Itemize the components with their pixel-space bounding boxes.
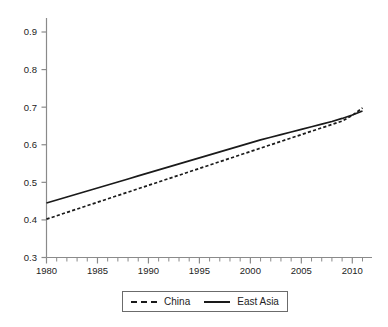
legend-label-china: China bbox=[164, 297, 190, 307]
x-tick-label: 1985 bbox=[87, 265, 108, 276]
x-tick-label: 1980 bbox=[36, 265, 57, 276]
chart-legend: China East Asia bbox=[122, 291, 288, 312]
y-tick-label: 0.5 bbox=[24, 177, 37, 188]
x-tick-label: 2005 bbox=[291, 265, 312, 276]
x-tick-label: 1990 bbox=[138, 265, 159, 276]
x-tick-label: 2000 bbox=[240, 265, 261, 276]
y-tick-label: 0.3 bbox=[24, 252, 37, 263]
x-axis-ticks: 1980198519901995200020052010 bbox=[36, 258, 363, 277]
y-axis-ticks: 0.30.40.50.60.70.80.9 bbox=[24, 26, 47, 263]
y-tick-label: 0.9 bbox=[24, 26, 37, 37]
legend-item-china[interactable]: China bbox=[131, 292, 190, 311]
solid-line-icon bbox=[204, 297, 230, 307]
y-tick-label: 0.7 bbox=[24, 102, 37, 113]
x-tick-label: 2010 bbox=[342, 265, 363, 276]
chart-figure: 0.30.40.50.60.70.80.9 198019851990199520… bbox=[0, 0, 388, 327]
series-line-east-asia bbox=[47, 111, 363, 203]
series-line-china bbox=[47, 108, 363, 219]
y-tick-label: 0.8 bbox=[24, 64, 37, 75]
y-tick-label: 0.4 bbox=[24, 214, 37, 225]
x-tick-label: 1995 bbox=[189, 265, 210, 276]
data-series-group bbox=[47, 108, 363, 219]
legend-item-east-asia[interactable]: East Asia bbox=[204, 292, 279, 311]
y-tick-label: 0.6 bbox=[24, 139, 37, 150]
dashed-line-icon bbox=[131, 297, 157, 307]
legend-label-east-asia: East Asia bbox=[237, 297, 279, 307]
line-chart-plot: 0.30.40.50.60.70.80.9 198019851990199520… bbox=[0, 0, 388, 327]
